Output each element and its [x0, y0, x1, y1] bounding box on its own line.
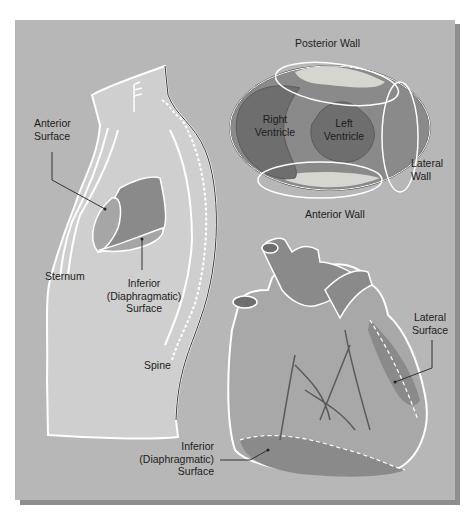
- label-inferior-surface-heart: Inferior (Diaphragmatic) Surface: [128, 440, 214, 478]
- aorta-opening: [262, 243, 278, 253]
- label-inferior-surface-thorax: Inferior (Diaphragmatic) Surface: [104, 277, 184, 315]
- label-anterior-wall: Anterior Wall: [305, 208, 365, 221]
- label-text: (Diaphragmatic): [128, 453, 214, 466]
- anterior-surface-dot: [104, 208, 107, 211]
- label-left-ventricle: Left Ventricle: [314, 117, 374, 142]
- label-text: Left: [314, 117, 374, 130]
- label-spine: Spine: [144, 359, 171, 372]
- label-text: Ventricle: [314, 130, 374, 143]
- label-lateral-surface: Lateral Surface: [405, 311, 455, 336]
- label-sternum: Sternum: [45, 270, 85, 283]
- label-text: Lateral: [405, 311, 455, 324]
- label-text: Surface: [128, 465, 214, 478]
- label-text: Wall: [411, 170, 443, 183]
- label-text: Right: [245, 113, 305, 126]
- anatomy-illustration: [0, 0, 476, 520]
- label-text: Inferior: [104, 277, 184, 290]
- label-posterior-wall: Posterior Wall: [295, 37, 360, 50]
- label-text: Inferior: [128, 440, 214, 453]
- label-text: Ventricle: [245, 126, 305, 139]
- lateral-surface-dot: [394, 381, 397, 384]
- label-right-ventricle: Right Ventricle: [245, 113, 305, 138]
- inferior-surface-heart-dot: [267, 449, 270, 452]
- label-text: Surface: [104, 302, 184, 315]
- label-text: Surface: [34, 130, 71, 143]
- superior-vena-cava-opening: [233, 296, 257, 308]
- inferior-surface-dot: [141, 238, 144, 241]
- label-text: Lateral: [411, 157, 443, 170]
- label-anterior-surface: Anterior Surface: [34, 117, 71, 142]
- label-text: (Diaphragmatic): [104, 290, 184, 303]
- label-text: Anterior: [34, 117, 71, 130]
- label-text: Surface: [405, 324, 455, 337]
- thorax-sagittal-view: [47, 66, 216, 438]
- heart-anterior-view: [220, 238, 432, 476]
- label-lateral-wall: Lateral Wall: [411, 157, 443, 182]
